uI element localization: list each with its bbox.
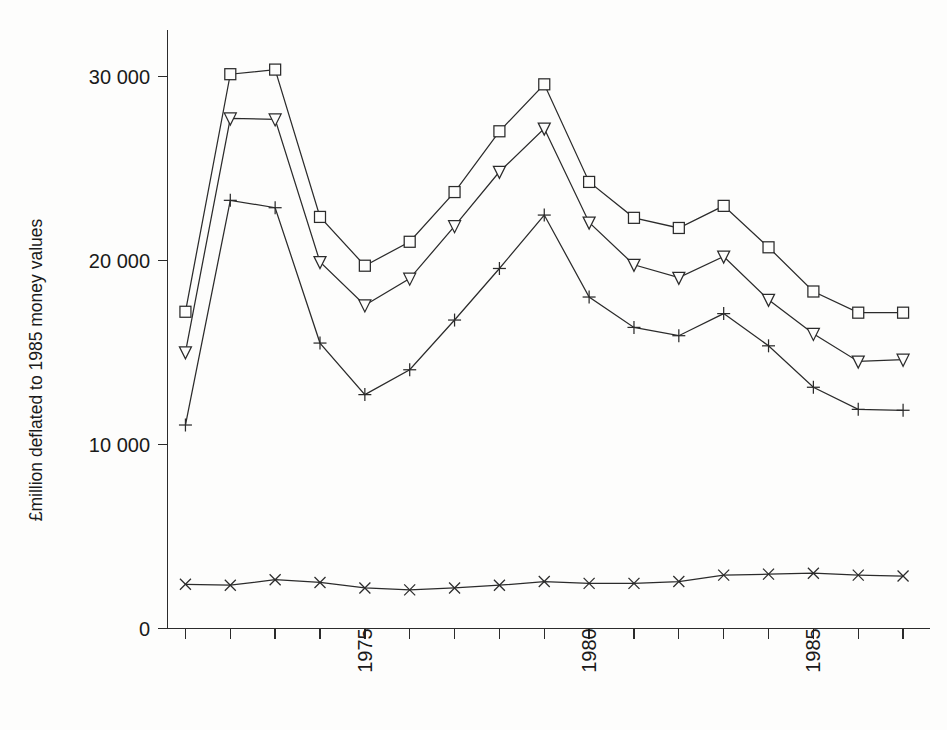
marker-triangle-down xyxy=(179,347,191,359)
series-path xyxy=(185,118,903,361)
marker-square xyxy=(673,222,684,233)
marker-square xyxy=(359,260,370,271)
x-tick-label-1975: 1975 xyxy=(354,628,376,673)
series-path xyxy=(185,200,903,425)
marker-square xyxy=(449,187,460,198)
marker-square xyxy=(539,79,550,90)
marker-plus xyxy=(672,329,685,342)
x-tick-label-1985: 1985 xyxy=(802,628,824,673)
marker-triangle-down xyxy=(359,300,371,312)
series-path xyxy=(185,70,903,313)
series-series-plus xyxy=(179,194,910,432)
marker-plus xyxy=(627,321,640,334)
y-tick-label-30000: 30 000 xyxy=(89,66,150,88)
y-tick-label-10000: 10 000 xyxy=(89,434,150,456)
line-chart: £million deflated to 1985 money values 3… xyxy=(0,0,947,730)
y-tick-label-0: 0 xyxy=(139,618,150,640)
marker-plus xyxy=(717,307,730,320)
y-axis-tick-labels: 30 000 20 000 10 000 0 xyxy=(89,66,150,640)
marker-square xyxy=(494,126,505,137)
x-tick-label-1980: 1980 xyxy=(578,628,600,673)
marker-triangle-down xyxy=(852,356,864,368)
x-axis-ticks xyxy=(185,629,903,639)
marker-square xyxy=(628,212,639,223)
marker-triangle-down xyxy=(807,328,819,340)
series-layer xyxy=(179,64,910,595)
marker-square xyxy=(853,307,864,318)
marker-square xyxy=(584,176,595,187)
y-tick-label-20000: 20 000 xyxy=(89,250,150,272)
series-series-cross xyxy=(180,568,909,596)
x-axis-tick-labels: 197519801985 xyxy=(354,628,825,673)
marker-square xyxy=(808,286,819,297)
chart-figure: £million deflated to 1985 money values 3… xyxy=(0,0,947,730)
marker-plus xyxy=(224,194,237,207)
y-axis-title: £million deflated to 1985 money values xyxy=(26,218,46,521)
marker-plus xyxy=(179,419,192,432)
marker-square xyxy=(763,242,774,253)
y-axis-ticks xyxy=(158,77,168,629)
series-series-square xyxy=(180,64,909,318)
marker-square xyxy=(404,236,415,247)
series-series-triangle-down xyxy=(179,113,909,368)
marker-plus xyxy=(583,291,596,304)
marker-square xyxy=(180,306,191,317)
marker-triangle-down xyxy=(269,114,281,126)
marker-triangle-down xyxy=(404,273,416,285)
marker-square xyxy=(718,200,729,211)
marker-square xyxy=(225,69,236,80)
marker-square xyxy=(270,64,281,75)
marker-square xyxy=(315,211,326,222)
marker-plus xyxy=(852,403,865,416)
marker-triangle-down xyxy=(673,272,685,284)
marker-plus xyxy=(897,404,910,417)
marker-triangle-down xyxy=(763,294,775,306)
marker-plus xyxy=(269,201,282,214)
marker-square xyxy=(898,307,909,318)
